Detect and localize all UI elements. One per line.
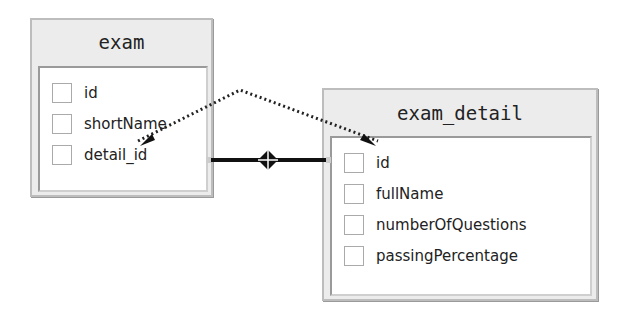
relationship-line[interactable] xyxy=(206,150,331,170)
drag-path-arrow xyxy=(138,90,378,146)
relationship-lines xyxy=(0,0,627,319)
